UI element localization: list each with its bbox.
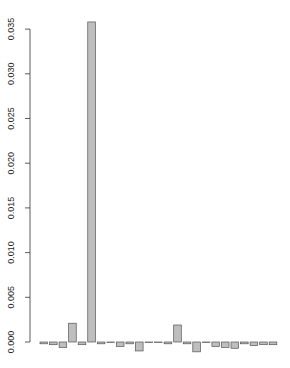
- bar-18: [202, 342, 210, 343]
- bar-5: [78, 342, 86, 345]
- bar-17: [193, 342, 201, 352]
- y-tick-label: 0.030: [6, 63, 16, 86]
- bar-10: [126, 342, 134, 344]
- bar-1: [40, 342, 48, 344]
- bar-2: [50, 342, 58, 345]
- bar-19: [212, 342, 220, 346]
- bar-20: [221, 342, 229, 347]
- bar-21: [231, 342, 239, 348]
- y-tick-label: 0.015: [6, 197, 16, 220]
- bar-8: [107, 342, 115, 343]
- bar-9: [116, 342, 124, 346]
- bar-15: [174, 325, 182, 342]
- bar-12: [145, 342, 153, 343]
- bar-11: [136, 342, 144, 351]
- bar-16: [183, 342, 191, 344]
- bar-23: [250, 342, 258, 346]
- y-tick-label: 0.000: [6, 331, 16, 354]
- y-tick-label: 0.010: [6, 241, 16, 264]
- bars: [40, 22, 277, 352]
- bar-chart: 0.0000.0050.0100.0150.0200.0250.0300.035: [0, 0, 290, 368]
- bar-3: [59, 342, 67, 347]
- y-tick-label: 0.020: [6, 152, 16, 175]
- bar-13: [155, 342, 163, 343]
- y-axis: 0.0000.0050.0100.0150.0200.0250.0300.035: [6, 18, 30, 353]
- bar-7: [97, 342, 105, 344]
- bar-4: [69, 323, 77, 342]
- bar-6: [88, 22, 96, 342]
- y-tick-label: 0.035: [6, 18, 16, 41]
- y-tick-label: 0.005: [6, 286, 16, 309]
- bar-24: [260, 342, 268, 345]
- bar-14: [164, 342, 172, 344]
- bar-22: [241, 342, 249, 344]
- bar-25: [269, 342, 277, 345]
- y-tick-label: 0.025: [6, 107, 16, 130]
